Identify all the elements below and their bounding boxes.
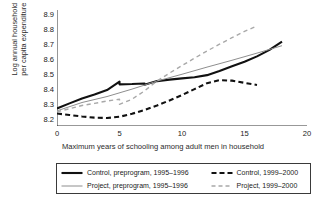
- legend-item-control-preprogram: Control, preprogram, 1995–1996: [61, 166, 211, 179]
- legend-item-control-1999: Control, 1999–2000: [211, 166, 306, 179]
- x-axis-title: Maximum years of schooling among adult m…: [0, 142, 326, 151]
- chart-figure: Log annual household per capita expendit…: [0, 0, 326, 211]
- chart-canvas: [57, 10, 307, 126]
- legend-item-project-preprogram: Project, preprogram, 1995–1996: [61, 179, 211, 192]
- legend-row: Control, preprogram, 1995–1996 Control, …: [61, 166, 306, 179]
- y-tick-label: 8.9: [34, 10, 54, 19]
- plot-area: [57, 10, 307, 126]
- x-tick-label: 0: [55, 129, 59, 138]
- x-tick-label: 10: [178, 129, 186, 138]
- y-axis-title: Log annual household per capita expendit…: [10, 0, 28, 94]
- x-tick-label: 15: [240, 129, 248, 138]
- legend-label: Project, 1999–2000: [237, 182, 298, 189]
- y-axis-title-line1: Log annual household: [10, 0, 19, 94]
- y-axis-title-line2: per capita expenditure: [19, 0, 28, 94]
- y-tick-label: 8.4: [34, 84, 54, 93]
- legend-swatch-line-icon: [61, 169, 83, 177]
- y-tick-label: 8.2: [34, 114, 54, 123]
- legend-label: Project, preprogram, 1995–1996: [87, 182, 188, 189]
- y-tick-label: 8.8: [34, 25, 54, 34]
- y-tick-label: 8.6: [34, 55, 54, 64]
- y-axis-tick-labels: 8.28.38.48.58.68.78.88.9: [30, 0, 54, 211]
- y-tick-label: 8.7: [34, 40, 54, 49]
- x-tick-label: 5: [117, 129, 121, 138]
- legend-label: Control, 1999–2000: [237, 169, 299, 176]
- legend-swatch-line-icon: [61, 182, 83, 190]
- chart-legend: Control, preprogram, 1995–1996 Control, …: [56, 163, 311, 194]
- y-tick-label: 8.5: [34, 69, 54, 78]
- legend-label: Control, preprogram, 1995–1996: [87, 169, 189, 176]
- x-tick-label: 20: [303, 129, 311, 138]
- x-axis-tick-labels: 05101520: [0, 129, 326, 141]
- y-tick-label: 8.3: [34, 99, 54, 108]
- legend-swatch-line-icon: [211, 182, 233, 190]
- legend-row: Project, preprogram, 1995–1996 Project, …: [61, 179, 306, 192]
- legend-swatch-line-icon: [211, 169, 233, 177]
- legend-item-project-1999: Project, 1999–2000: [211, 179, 306, 192]
